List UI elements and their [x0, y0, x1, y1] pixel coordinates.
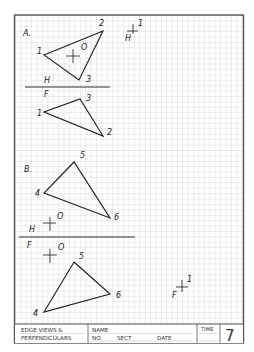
title-line-1: EDGE VIEWS & — [21, 327, 63, 333]
time-label: TIME — [200, 326, 213, 332]
point-o-label: O — [81, 43, 87, 52]
point-1-front-label: 1 — [37, 109, 42, 118]
point-3-front-label: 3 — [86, 94, 91, 103]
point-4-label: 4 — [35, 189, 40, 198]
aux-marker-b-point-label: 1 — [187, 275, 192, 284]
sect-label: SECT — [117, 335, 132, 341]
title-block: EDGE VIEWS & PERPENDICULARS NAME NO. SEC… — [15, 324, 244, 345]
fold-label-h: H — [44, 76, 50, 85]
view-label-h: H — [29, 225, 35, 234]
worksheet: A. 1 2 3 O H F 1 3 2 1 H B. 5 — [0, 0, 254, 352]
point-1-label: 1 — [37, 47, 42, 56]
point-4-front-label: 4 — [33, 309, 38, 318]
grid-paper — [15, 15, 243, 324]
fold-label-f-b: F — [27, 241, 32, 250]
point-o-front-label: O — [58, 243, 64, 252]
point-o-top-label: O — [57, 212, 63, 221]
point-5-front-label: 5 — [79, 252, 84, 261]
point-6-label: 6 — [114, 213, 119, 222]
name-label: NAME — [92, 327, 109, 333]
point-2-label: 2 — [99, 19, 104, 28]
point-5-label: 5 — [80, 151, 85, 160]
point-6-front-label: 6 — [116, 291, 121, 300]
title-line-2: PERPENDICULARS — [21, 335, 72, 341]
problem-a-label: A. — [22, 29, 31, 38]
aux-marker-b-view-label: F — [172, 291, 177, 300]
aux-marker-view-label: H — [125, 34, 131, 43]
no-label: NO. — [92, 335, 102, 341]
point-3-label: 3 — [86, 75, 91, 84]
problem-b-label: B. — [24, 165, 32, 174]
sheet-number: 7 — [225, 327, 235, 345]
aux-marker-point-label: 1 — [138, 19, 143, 28]
fold-label-f: F — [44, 90, 49, 99]
point-2-front-label: 2 — [107, 128, 112, 137]
date-label: DATE — [157, 335, 172, 341]
